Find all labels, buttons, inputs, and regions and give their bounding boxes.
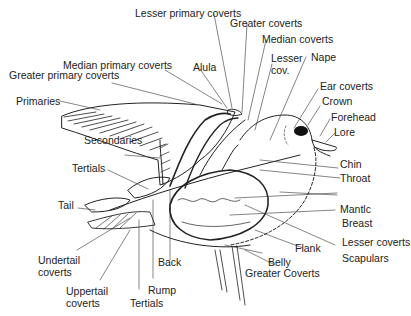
label-mantle: Mantlc (340, 204, 371, 215)
folded-wing (170, 170, 268, 240)
label-lesser-coverts: Lesser coverts (342, 237, 410, 248)
label-alula: Alula (193, 62, 216, 73)
label-undertail-coverts-line2: coverts (38, 267, 72, 278)
label-lesser-primary-coverts: Lesser primary coverts (135, 8, 241, 19)
label-throat: Throat (340, 173, 370, 184)
leg-right (232, 246, 245, 305)
label-nape: Nape (311, 52, 336, 63)
label-scapulars: Scapulars (342, 253, 389, 264)
wing-inner-edge (182, 222, 250, 227)
label-greater-coverts-lower: Greater Coverts (245, 268, 320, 279)
leg-left (215, 250, 227, 292)
tertials-shape (128, 177, 170, 198)
label-primaries: Primaries (16, 96, 60, 107)
label-flank: Flank (295, 243, 321, 254)
head-outline (240, 115, 330, 156)
label-back: Back (158, 257, 181, 268)
label-lesser-cov-line2: cov. (271, 65, 289, 76)
label-uppertail-coverts-line2: coverts (66, 298, 100, 309)
label-forehead: Forehead (331, 112, 376, 123)
label-tertials-lower: Tertials (130, 298, 163, 309)
label-lesser-cov-line1: Lesser (271, 53, 303, 64)
label-chin: Chin (340, 159, 362, 170)
label-uppertail-coverts-line1: Uppertail (66, 286, 108, 297)
eye-icon (294, 126, 308, 136)
bill (312, 140, 336, 151)
label-undertail-coverts-line1: Undertail (38, 255, 80, 266)
label-lore: Lore (334, 127, 355, 138)
label-greater-coverts: Greater coverts (230, 18, 302, 29)
label-tail: Tail (58, 200, 74, 211)
label-rump: Rump (148, 285, 176, 296)
label-breast: Breast (342, 218, 372, 229)
label-tertials-upper: Tertials (72, 163, 105, 174)
wing-scallops (178, 199, 240, 202)
label-ear-coverts: Ear coverts (320, 81, 373, 92)
label-secondaries: Secondaries (84, 135, 142, 146)
label-median-coverts: Median coverts (262, 34, 333, 45)
coverts-band-3 (200, 120, 245, 175)
neck-back (222, 145, 238, 170)
ear-patch (284, 126, 288, 145)
breast-outline (230, 148, 316, 245)
label-greater-primary-coverts: Greater primary coverts (9, 70, 119, 81)
label-crown: Crown (322, 96, 352, 107)
